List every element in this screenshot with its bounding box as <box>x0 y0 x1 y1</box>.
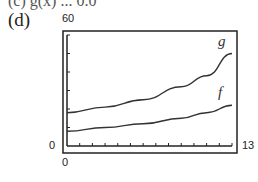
curve-label-f: f <box>218 84 224 100</box>
outer-frame <box>63 31 237 153</box>
chart-plot: g f <box>0 0 258 182</box>
axis-ticks <box>67 35 232 146</box>
curve-g <box>67 54 232 113</box>
curve-label-g: g <box>218 33 226 49</box>
